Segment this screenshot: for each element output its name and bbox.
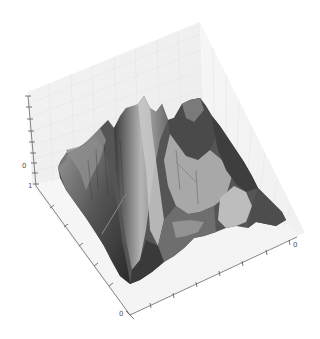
z-tick-label-1: 1 [28,182,32,190]
plot-canvas: 0 1 0 0 [0,0,320,339]
y-tick-label-0: 0 [293,241,297,249]
surface-plot: 0 1 0 0 [0,0,320,339]
z-tick-label-0: 0 [22,162,26,170]
x-tick-label-0: 0 [119,310,123,318]
